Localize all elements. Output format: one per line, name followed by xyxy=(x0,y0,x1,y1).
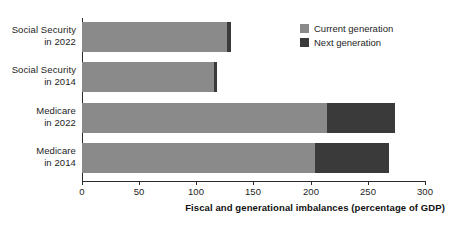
category-label-line: Social Security xyxy=(0,64,76,76)
x-tick-mark xyxy=(253,181,254,185)
bar-medicare-2014 xyxy=(82,143,389,173)
category-label-medicare-2014: Medicare in 2014 xyxy=(0,145,76,168)
x-tick-mark xyxy=(82,181,83,185)
x-tick-mark xyxy=(368,181,369,185)
legend-item-current-generation: Current generation xyxy=(300,23,393,34)
category-label-social-security-2022: Social Security in 2022 xyxy=(0,24,76,47)
legend: Current generation Next generation xyxy=(300,23,393,51)
bar-segment-next-generation xyxy=(214,62,217,92)
x-axis-title: Fiscal and generational imbalances (perc… xyxy=(0,202,445,213)
legend-item-next-generation: Next generation xyxy=(300,37,393,48)
x-tick-mark xyxy=(196,181,197,185)
category-label-line: in 2014 xyxy=(0,157,76,169)
category-label-line: Medicare xyxy=(0,145,76,157)
x-tick-mark xyxy=(311,181,312,185)
x-tick-label-300: 300 xyxy=(405,186,445,197)
category-label-line: in 2014 xyxy=(0,76,76,88)
category-label-social-security-2014: Social Security in 2014 xyxy=(0,64,76,87)
x-tick-label-50: 50 xyxy=(119,186,159,197)
category-label-line: in 2022 xyxy=(0,36,76,48)
legend-swatch-icon xyxy=(300,24,309,33)
x-tick-label-200: 200 xyxy=(291,186,331,197)
category-label-medicare-2022: Medicare in 2022 xyxy=(0,105,76,128)
bar-social-security-2014 xyxy=(82,62,217,92)
x-axis-line xyxy=(82,181,426,182)
category-label-line: Social Security xyxy=(0,24,76,36)
x-tick-mark xyxy=(425,181,426,185)
legend-label: Current generation xyxy=(314,23,393,34)
legend-label: Next generation xyxy=(314,37,381,48)
bar-chart: Social Security in 2022 Social Security … xyxy=(0,0,451,228)
x-tick-label-150: 150 xyxy=(233,186,273,197)
bar-segment-next-generation xyxy=(315,143,389,173)
bar-segment-current-generation xyxy=(82,143,315,173)
category-label-line: in 2022 xyxy=(0,117,76,129)
bar-segment-current-generation xyxy=(82,62,214,92)
x-tick-label-250: 250 xyxy=(348,186,388,197)
legend-swatch-icon xyxy=(300,38,309,47)
bar-segment-current-generation xyxy=(82,22,227,52)
bar-segment-next-generation xyxy=(327,103,396,133)
bar-segment-next-generation xyxy=(227,22,230,52)
x-tick-label-0: 0 xyxy=(62,186,102,197)
x-tick-label-100: 100 xyxy=(176,186,216,197)
x-tick-mark xyxy=(139,181,140,185)
category-label-line: Medicare xyxy=(0,105,76,117)
bar-segment-current-generation xyxy=(82,103,327,133)
bar-medicare-2022 xyxy=(82,103,395,133)
bar-social-security-2022 xyxy=(82,22,231,52)
